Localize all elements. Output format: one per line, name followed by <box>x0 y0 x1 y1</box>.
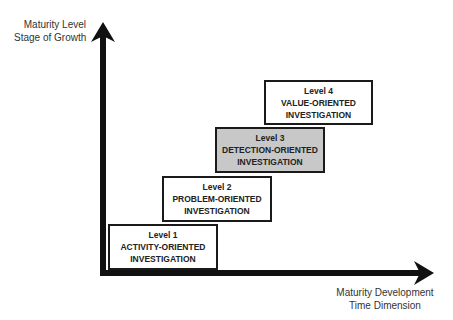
level-2-box: Level 2 PROBLEM-ORIENTED INVESTIGATION <box>162 176 272 222</box>
x-axis-label: Maturity Development Time Dimension <box>330 286 440 312</box>
y-axis-label-line1: Maturity Level <box>14 18 86 31</box>
level-3-name: DETECTION-ORIENTED <box>222 144 318 156</box>
level-2-title: Level 2 <box>203 181 232 193</box>
level-4-name: VALUE-ORIENTED <box>281 97 356 109</box>
y-axis-label-line2: Stage of Growth <box>14 31 86 44</box>
x-axis-label-line2: Time Dimension <box>330 299 440 312</box>
level-2-sub: INVESTIGATION <box>184 205 250 217</box>
level-3-sub: INVESTIGATION <box>237 156 303 168</box>
level-4-title: Level 4 <box>304 85 333 97</box>
level-4-box: Level 4 VALUE-ORIENTED INVESTIGATION <box>264 80 373 125</box>
level-4-sub: INVESTIGATION <box>286 109 352 121</box>
x-axis-label-line1: Maturity Development <box>330 286 440 299</box>
level-1-name: ACTIVITY-ORIENTED <box>120 241 205 253</box>
level-3-box: Level 3 DETECTION-ORIENTED INVESTIGATION <box>215 127 325 173</box>
level-3-title: Level 3 <box>256 132 285 144</box>
level-1-title: Level 1 <box>149 229 178 241</box>
level-2-name: PROBLEM-ORIENTED <box>172 193 261 205</box>
level-1-box: Level 1 ACTIVITY-ORIENTED INVESTIGATION <box>108 224 218 270</box>
y-axis-label: Maturity Level Stage of Growth <box>14 18 86 44</box>
level-1-sub: INVESTIGATION <box>130 253 196 265</box>
